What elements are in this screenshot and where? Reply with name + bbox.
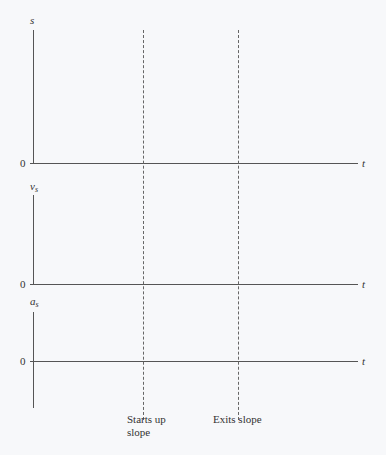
marker-label-starts-slope: Starts up slope — [127, 413, 166, 439]
y-axis-label-vs: vs — [30, 180, 38, 196]
y-axis-acceleration — [33, 312, 34, 408]
ylabel-sub: s — [36, 300, 39, 309]
zero-label-velocity: 0 — [20, 278, 26, 290]
x-axis-velocity — [30, 284, 358, 285]
marker-label-exits-slope: Exits slope — [213, 413, 262, 426]
marker-label-line1: Exits slope — [213, 413, 262, 426]
ylabel-sub: s — [35, 185, 38, 194]
marker-label-line2: slope — [127, 426, 166, 439]
x-axis-label-t: t — [362, 355, 365, 367]
y-axis-label-as: as — [30, 295, 39, 311]
x-axis-label-t: t — [362, 278, 365, 290]
marker-line-exits-slope — [238, 30, 239, 420]
y-axis-position — [33, 30, 34, 164]
y-axis-velocity — [33, 195, 34, 285]
x-axis-position — [30, 163, 358, 164]
x-axis-label-t: t — [362, 157, 365, 169]
zero-label-acceleration: 0 — [20, 355, 26, 367]
zero-label-position: 0 — [20, 157, 26, 169]
marker-line-starts-slope — [143, 30, 144, 420]
x-axis-acceleration — [30, 361, 358, 362]
marker-label-line1: Starts up — [127, 413, 166, 426]
y-axis-label-s: s — [30, 14, 34, 26]
